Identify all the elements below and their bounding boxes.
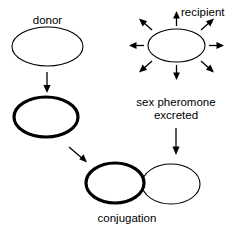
pheromone-radiating-arrows	[129, 11, 224, 80]
pheromone-arrow-down-left	[139, 61, 152, 73]
pheromone-arrow-up-right	[201, 19, 214, 31]
pheromone-excretion-arrow	[172, 128, 179, 155]
conjugation-donor-cell	[86, 163, 144, 203]
pheromone-arrow-up	[173, 11, 180, 26]
conjugation-approach-arrow	[69, 147, 87, 163]
pheromone-arrow-down-right	[201, 61, 214, 73]
pheromone-arrow-down	[173, 65, 180, 80]
recipient-cell	[148, 29, 205, 62]
donor-cell-initial	[12, 27, 83, 66]
conjugation-label: conjugation	[98, 212, 157, 224]
pheromone-label-line2: excreted	[154, 109, 198, 121]
conjugation-recipient-cell	[142, 164, 200, 204]
donor-label: donor	[33, 14, 63, 26]
pheromone-arrow-up-left	[139, 19, 152, 31]
pheromone-arrow-left	[129, 42, 144, 49]
donor-cell-activated	[14, 97, 78, 137]
pheromone-arrow-right	[209, 42, 224, 49]
pheromone-label-line1: sex pheromone	[136, 96, 215, 108]
conjugation-diagram: donor recipient	[0, 0, 238, 230]
diagram-canvas: donor recipient	[0, 0, 238, 230]
donor-maturation-arrow	[43, 72, 50, 93]
recipient-label: recipient	[181, 6, 225, 18]
